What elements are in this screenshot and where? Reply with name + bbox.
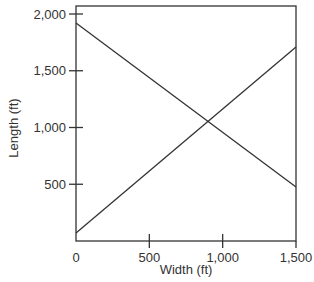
y-tick-label: 1,500 [33, 63, 66, 78]
x-axis-label: Width (ft) [160, 262, 213, 277]
y-tick-label: 2,000 [33, 7, 66, 22]
x-tick-label: 1,500 [280, 250, 313, 265]
y-axis-label: Length (ft) [6, 98, 21, 157]
line-chart: 5001,0001,5002,000 05001,0001,500 Width … [0, 0, 314, 282]
decreasing-line [76, 23, 296, 187]
x-tick-label: 500 [138, 250, 160, 265]
y-tick-label: 1,000 [33, 120, 66, 135]
increasing-line [76, 47, 296, 233]
x-axis-ticks: 05001,0001,500 [72, 234, 312, 265]
x-tick-label: 0 [72, 250, 79, 265]
data-series [76, 23, 296, 233]
y-tick-label: 500 [44, 177, 66, 192]
